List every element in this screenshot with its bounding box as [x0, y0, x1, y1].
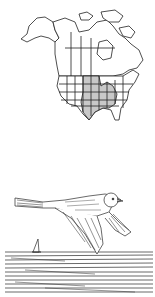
water-lines	[5, 252, 153, 292]
sparrow-flight-graphic	[5, 188, 153, 297]
bird-illustration	[5, 188, 153, 297]
range-map	[15, 8, 150, 126]
north-america-map-graphic	[15, 8, 150, 126]
